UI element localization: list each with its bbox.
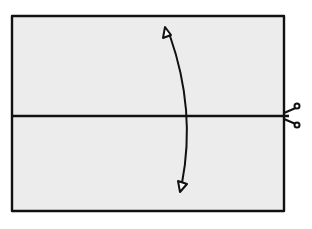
folding-diagram xyxy=(0,0,312,229)
paper-sheet xyxy=(12,16,284,211)
